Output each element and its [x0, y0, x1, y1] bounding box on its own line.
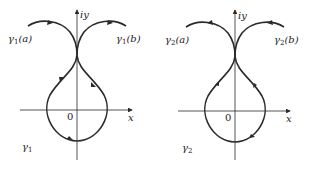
x-axis-label: x [286, 114, 292, 124]
end-point-label: γ2(b) [274, 35, 299, 47]
diagram-panel-gamma1: iy x 0 γ1(a) γ1(b) γ1 [0, 0, 156, 169]
curve-name-label: γ1 [22, 142, 32, 154]
y-axis-label: iy [80, 10, 89, 20]
start-point-label: γ2(a) [165, 35, 189, 47]
diagram-panel-gamma2: iy x 0 γ2(a) γ2(b) γ2 [156, 0, 312, 169]
arrow-icon [207, 20, 213, 25]
left-arc [28, 21, 77, 55]
y-axis-label: iy [238, 11, 247, 21]
label-arg: (a) [18, 33, 32, 44]
end-point-label: γ1(b) [116, 34, 141, 46]
label-arg: (b) [126, 33, 140, 44]
label-arg: (a) [175, 34, 189, 45]
x-axis-label: x [128, 113, 134, 123]
contour-gamma2-svg [156, 0, 312, 169]
start-point-label: γ1(a) [8, 34, 32, 46]
label-subscript: 2 [188, 147, 192, 155]
label-arg: (b) [284, 34, 298, 45]
label-subscript: 1 [28, 146, 32, 154]
curve-name-label: γ2 [182, 143, 192, 155]
origin-label: 0 [67, 112, 73, 122]
arrow-icon [267, 20, 273, 25]
left-arc [186, 22, 235, 56]
origin-label: 0 [225, 113, 231, 123]
